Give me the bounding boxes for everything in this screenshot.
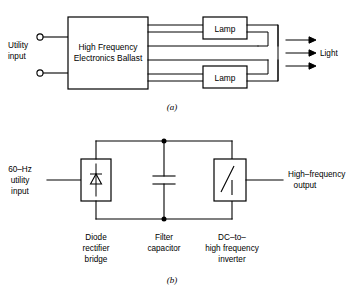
ballast-label-line1: High Frequency bbox=[78, 42, 138, 52]
ballast-label-line2: Electronics Ballast bbox=[74, 53, 143, 63]
light-arrow-middle bbox=[286, 50, 316, 56]
input-label-b-line3: input bbox=[11, 187, 29, 196]
utility-input-terminal-bottom bbox=[37, 70, 43, 76]
filter-capacitor-label-line2: capacitor bbox=[147, 244, 180, 253]
capacitor-icon bbox=[153, 176, 175, 184]
lamp-top-return-inner bbox=[247, 32, 268, 46]
diode-bridge-label-line2: rectifier bbox=[83, 244, 110, 253]
utility-input-label-line2: input bbox=[8, 52, 26, 61]
inverter-label-line2: high frequency bbox=[205, 244, 260, 253]
panel-b: 60–Hz utility input bbox=[8, 139, 346, 286]
light-output-label: Light bbox=[320, 49, 338, 58]
light-arrow-bottom bbox=[286, 63, 316, 69]
inverter-label-line1: DC–to– bbox=[218, 233, 246, 242]
output-label-b-line1: High–frequency bbox=[288, 170, 346, 179]
lamp-bottom-return-outer bbox=[247, 60, 278, 81]
output-label-b-line2: output bbox=[294, 181, 317, 190]
panel-b-caption: (b) bbox=[167, 275, 178, 285]
inverter-block bbox=[214, 159, 246, 201]
utility-input-label-line1: Utility bbox=[8, 41, 29, 50]
inverter-label-line3: inverter bbox=[218, 255, 246, 264]
light-arrow-top bbox=[286, 37, 316, 43]
diode-bridge-label-line3: bridge bbox=[85, 255, 108, 264]
input-label-b-line1: 60–Hz bbox=[8, 165, 32, 174]
lamp-top-label: Lamp bbox=[215, 24, 236, 34]
lamp-bottom-return-inner bbox=[247, 60, 268, 74]
lamp-top-return-outer bbox=[247, 25, 278, 46]
panel-a: Utility input High Frequency Electronics… bbox=[8, 17, 338, 112]
filter-capacitor-label-line1: Filter bbox=[155, 233, 173, 242]
junction-dot-top bbox=[162, 139, 167, 144]
input-label-b-line2: utility bbox=[11, 176, 31, 185]
utility-input-terminal-top bbox=[37, 34, 43, 40]
figure-container: Utility input High Frequency Electronics… bbox=[0, 0, 357, 291]
junction-dot-bottom bbox=[162, 217, 167, 222]
lamp-bottom-label: Lamp bbox=[215, 73, 236, 83]
ballast-figure-svg: Utility input High Frequency Electronics… bbox=[0, 0, 357, 291]
diode-bridge-label-line1: Diode bbox=[85, 233, 107, 242]
panel-a-caption: (a) bbox=[167, 102, 178, 112]
